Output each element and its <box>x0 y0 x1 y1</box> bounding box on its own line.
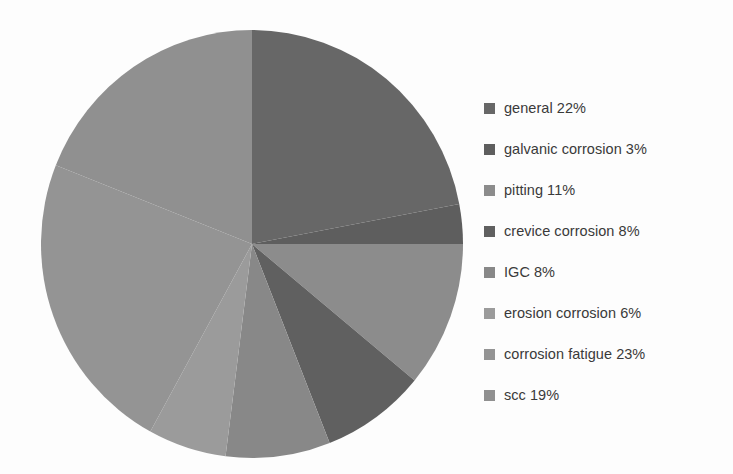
legend-swatch-icon <box>484 185 495 196</box>
pie-svg <box>0 0 480 474</box>
legend-swatch-icon <box>484 103 495 114</box>
pie-plot-area <box>0 0 480 474</box>
legend-item[interactable]: IGC 8% <box>484 252 728 293</box>
legend-item[interactable]: general 22% <box>484 88 728 129</box>
legend-item[interactable]: corrosion fatigue 23% <box>484 334 728 375</box>
legend-swatch-icon <box>484 144 495 155</box>
legend-item[interactable]: erosion corrosion 6% <box>484 293 728 334</box>
legend-item[interactable]: galvanic corrosion 3% <box>484 129 728 170</box>
pie-chart-figure: general 22%galvanic corrosion 3%pitting … <box>0 0 733 474</box>
legend-swatch-icon <box>484 308 495 319</box>
legend-item-label: IGC 8% <box>504 252 555 293</box>
legend-item-label: scc 19% <box>504 375 559 416</box>
legend-item[interactable]: pitting 11% <box>484 170 728 211</box>
legend-swatch-icon <box>484 390 495 401</box>
legend-item[interactable]: scc 19% <box>484 375 728 416</box>
legend-item-label: galvanic corrosion 3% <box>504 129 647 170</box>
legend-swatch-icon <box>484 226 495 237</box>
chart-legend: general 22%galvanic corrosion 3%pitting … <box>484 88 728 400</box>
legend-swatch-icon <box>484 267 495 278</box>
pie-slice-group <box>41 30 463 458</box>
legend-item[interactable]: crevice corrosion 8% <box>484 211 728 252</box>
legend-swatch-icon <box>484 349 495 360</box>
legend-item-label: erosion corrosion 6% <box>504 293 641 334</box>
legend-item-label: pitting 11% <box>504 170 575 211</box>
legend-item-label: crevice corrosion 8% <box>504 211 640 252</box>
legend-item-label: corrosion fatigue 23% <box>504 334 645 375</box>
legend-item-label: general 22% <box>504 88 586 129</box>
